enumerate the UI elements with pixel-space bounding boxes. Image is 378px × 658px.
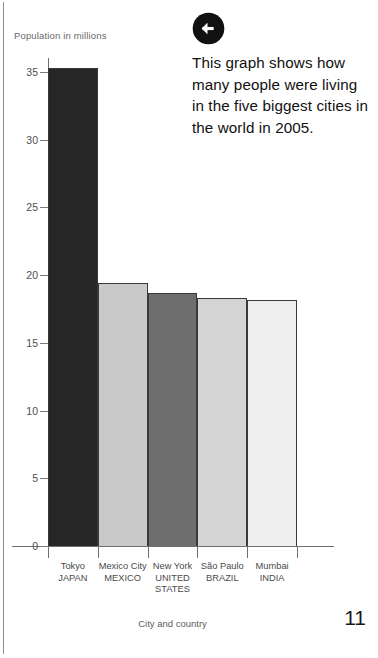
x-axis-line xyxy=(12,546,334,547)
y-tick-label: 5 xyxy=(14,472,38,484)
x-tick-mark xyxy=(247,547,248,558)
x-tick-mark xyxy=(197,547,198,558)
bar-mexico-city[interactable] xyxy=(98,283,148,546)
x-tick-mark xyxy=(148,547,149,558)
x-category-label-mumbai: MumbaiINDIA xyxy=(241,561,303,584)
y-tick-label: 20 xyxy=(14,269,38,281)
y-tick-label: 35 xyxy=(14,66,38,78)
page-number: 11 xyxy=(344,606,366,630)
x-tick-mark xyxy=(98,547,99,558)
y-tick-label: 15 xyxy=(14,337,38,349)
y-tick-label: 30 xyxy=(14,134,38,146)
y-tick-label: 25 xyxy=(14,201,38,213)
x-tick-mark xyxy=(48,547,49,558)
x-category-country: INDIA xyxy=(241,573,303,585)
y-tick-label: 10 xyxy=(14,405,38,417)
worksheet-page: This graph shows how many people were li… xyxy=(0,0,378,658)
bar-new-york[interactable] xyxy=(148,293,198,546)
x-tick-mark xyxy=(297,547,298,558)
y-tick-label: 0 xyxy=(14,540,38,552)
bar-chart: 0 5 10 15 20 25 30 35 TokyoJAPAN Mexico … xyxy=(0,0,378,658)
bar-mumbai[interactable] xyxy=(247,300,297,546)
bar-sao-paulo[interactable] xyxy=(197,298,247,546)
x-axis-title: City and country xyxy=(48,618,297,629)
x-category-city: Mumbai xyxy=(241,561,303,573)
bar-tokyo[interactable] xyxy=(48,68,98,546)
